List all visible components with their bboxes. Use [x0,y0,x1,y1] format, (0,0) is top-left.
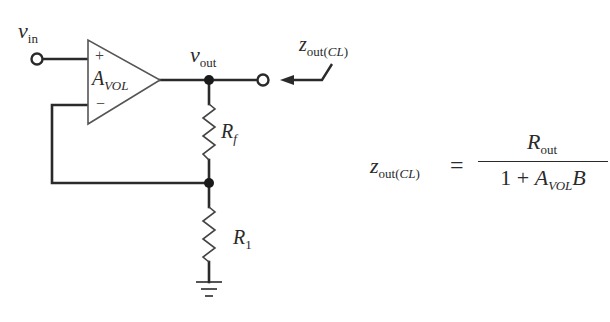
rf-main: R [221,120,233,142]
zout-main: z [299,33,307,55]
rf-label: Rf [221,121,237,141]
vout-junction-dot [204,75,214,85]
output-impedance-formula: zout(CL) = Rout 1 + AVOLB [370,134,610,194]
plus-sign: + [95,48,104,64]
avol-sub: VOL [104,78,128,93]
r1-main: R [233,226,245,248]
zout-cl-label: zout(CL) [299,34,348,54]
fraction-bar [478,161,608,162]
den-prefix: 1 + [500,165,534,190]
zout-sub-end: ) [344,44,348,59]
resistor-rf [203,104,215,160]
lhs-main: z [370,153,379,178]
rf-sub: f [233,131,237,146]
vin-sub: in [28,31,38,46]
vin-terminal [32,54,43,65]
feedback-junction-dot [204,178,214,188]
zout-sub-a: out( [307,44,328,59]
avol-main: A [92,67,104,89]
zout-arrow-icon [280,64,332,85]
lhs-sub-end: ) [415,166,419,181]
r1-sub: 1 [245,237,252,252]
num-sub: out [540,142,557,157]
den-suffix: B [572,165,585,190]
vin-label: vin [18,20,38,42]
ground-icon [196,282,222,296]
zout-sub: out(CL) [307,44,348,59]
den-main: A [535,165,548,190]
formula-lhs: zout(CL) [370,155,420,177]
minus-sign: − [96,96,105,112]
num-main: R [527,129,540,154]
vin-main: v [18,18,28,43]
vout-main: v [190,42,200,67]
lhs-sub: out(CL) [379,166,420,181]
formula-numerator: Rout [480,131,604,153]
vout-label: vout [190,44,216,66]
feedback-wire [52,105,209,183]
lhs-sub-it: CL [400,166,416,181]
avol-label: AVOL [92,68,128,88]
zout-sub-it: CL [328,44,344,59]
lhs-sub-a: out( [379,166,400,181]
formula-equals: = [450,153,464,177]
formula-denominator: 1 + AVOLB [478,167,608,189]
resistor-r1 [203,207,215,262]
r1-label: R1 [233,227,252,247]
den-sub: VOL [548,178,572,193]
vout-sub: out [200,55,217,70]
output-terminal [258,75,269,86]
